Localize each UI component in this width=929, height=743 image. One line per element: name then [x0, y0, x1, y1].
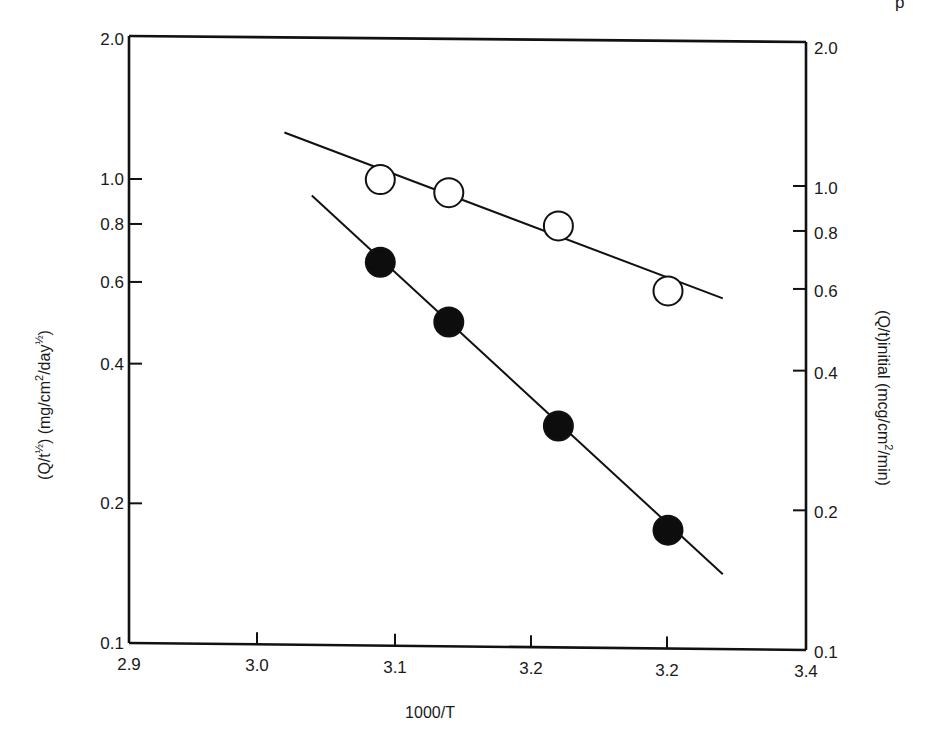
left-y-tick-label: 2.0	[100, 30, 124, 49]
filled-circle-marker	[544, 412, 573, 441]
open-circle-marker	[366, 165, 395, 194]
right-y-tick-label: 0.6	[814, 282, 838, 301]
svg-text:(Q/t½) (mg/cm2/day½): (Q/t½) (mg/cm2/day½)	[33, 330, 53, 480]
x-axis-title: 1000/T	[405, 704, 455, 721]
left-y-tick-label: 0.2	[100, 494, 124, 513]
x-tick-label: 3.2	[655, 661, 679, 680]
right-y-tick-label: 0.2	[814, 503, 838, 522]
left-y-tick-label: 0.6	[100, 273, 124, 292]
open-circle-marker	[434, 178, 463, 207]
right-y-tick-label: 2.0	[814, 39, 838, 58]
x-axis-tick-labels: 2.93.03.13.23.23.4	[117, 655, 818, 681]
right-y-tick-label: 0.8	[814, 224, 838, 243]
right-y-tick-label: 1.0	[814, 179, 838, 198]
arrhenius-plot: p 2.01.00.80.60.40.20.1 2.01.00.80.60.40…	[0, 0, 929, 743]
open-circle-marker	[654, 276, 683, 305]
data-series	[284, 132, 722, 574]
fit-line	[284, 132, 722, 298]
right-y-tick-label: 0.4	[814, 364, 838, 383]
right-y-tick-label: 0.1	[814, 643, 838, 662]
x-tick-label: 2.9	[117, 655, 141, 674]
left-y-axis-ticks	[129, 179, 142, 503]
x-tick-label: 3.4	[794, 662, 818, 681]
svg-text:(Q/t)initial (mcg/cm2/min): (Q/t)initial (mcg/cm2/min)	[875, 310, 895, 486]
right-y-axis-title: (Q/t)initial (mcg/cm2/min)	[875, 310, 895, 486]
page-fragment-glyph: p	[895, 0, 904, 12]
left-y-axis-tick-labels: 2.01.00.80.60.40.20.1	[100, 30, 124, 653]
left-y-tick-label: 0.1	[100, 634, 124, 653]
right-y-axis-ticks	[793, 186, 806, 510]
top-axis-line	[129, 36, 806, 42]
filled-circle-marker	[654, 516, 683, 545]
filled-circle-marker	[366, 248, 395, 277]
bottom-axis-line	[129, 643, 806, 650]
left-y-axis-title: (Q/t½) (mg/cm2/day½)	[33, 330, 53, 480]
left-y-tick-label: 0.4	[100, 355, 124, 374]
open-circle-marker	[544, 211, 573, 240]
x-tick-label: 3.2	[519, 659, 543, 678]
left-y-tick-label: 1.0	[100, 170, 124, 189]
filled-circle-marker	[434, 307, 463, 336]
right-y-axis-tick-labels: 2.01.00.80.60.40.20.1	[814, 39, 838, 662]
x-tick-label: 3.1	[383, 658, 407, 677]
left-y-tick-label: 0.8	[100, 215, 124, 234]
x-tick-label: 3.0	[245, 656, 269, 675]
